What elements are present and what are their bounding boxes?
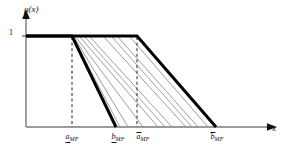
x-axis-label: x [272,124,276,133]
tick-sub: MF [115,136,124,142]
embedded-mf-line [90,37,172,127]
tick-label-a-lower: aMF [65,133,78,141]
embedded-mf-line [80,37,158,127]
embedded-mf-line [85,37,165,127]
tick-sub: MF [69,136,78,142]
embedded-mf-line [118,37,198,127]
lower-membership-function [26,36,116,127]
embedded-mf-line [74,37,128,127]
figure-canvas [0,0,285,152]
tick-sub: MF [214,136,223,142]
upper-membership-function [26,36,216,127]
embedded-mf-line [104,37,186,127]
y-axis-label: μ(x) [24,5,39,14]
y-tick-label-one: 1 [9,29,13,37]
embedded-mf-line [130,37,208,127]
tick-label-a-upper: aMF [136,133,149,141]
tick-sub: MF [140,136,149,142]
embedded-mf-line [112,37,192,127]
tick-label-b-upper: bMF [210,133,223,141]
tick-label-b-lower: bMF [111,133,124,141]
membership-function-figure: μ(x) x 1 aMF bMF aMF bMF [0,0,285,152]
